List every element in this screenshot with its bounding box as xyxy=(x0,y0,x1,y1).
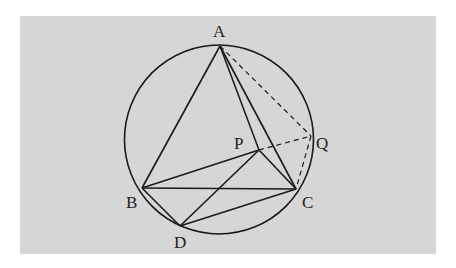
label-Q: Q xyxy=(316,134,328,153)
label-D: D xyxy=(174,233,186,252)
label-A: A xyxy=(213,22,226,41)
diagram-background xyxy=(20,16,436,254)
label-P: P xyxy=(234,134,243,153)
geometry-diagram: A B C D P Q xyxy=(0,0,456,268)
label-C: C xyxy=(302,193,313,212)
label-B: B xyxy=(126,193,137,212)
